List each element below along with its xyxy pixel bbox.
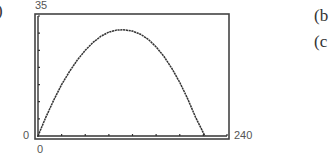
calculator-graph (0, 0, 335, 158)
graph-frame (35, 14, 229, 139)
data-curve (38, 30, 205, 136)
